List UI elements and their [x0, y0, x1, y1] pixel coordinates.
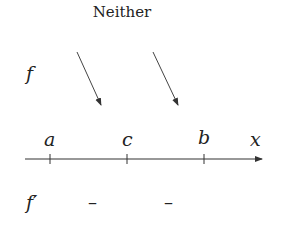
decreasing-arrow-2 [153, 52, 178, 105]
decreasing-arrow-1 [77, 52, 101, 105]
diagram-graphics [0, 0, 281, 227]
